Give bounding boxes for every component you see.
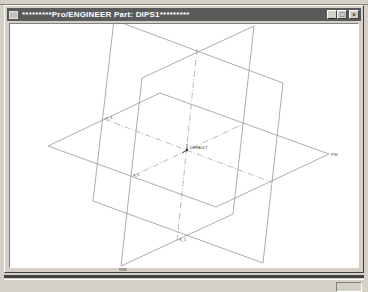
label-point-1: z_1 [106, 115, 113, 120]
label-point-3: X_1 [179, 237, 187, 242]
window-controls: _ □ × [327, 10, 359, 19]
status-indicator [336, 282, 362, 292]
title-bar[interactable]: *********Pro/ENGINEER Part: DIPS1*******… [7, 8, 361, 21]
model-view[interactable]: FRNT RIW PW DEFAULT z_1 s_1 X_1 [10, 24, 360, 274]
window-icon[interactable] [9, 11, 18, 19]
proe-part-window: *********Pro/ENGINEER Part: DIPS1*******… [4, 5, 364, 273]
status-bar [4, 279, 364, 292]
datum-plane-frnt[interactable] [93, 24, 283, 263]
window-separator [4, 275, 364, 278]
label-right: RIW [119, 267, 127, 272]
window-title: *********Pro/ENGINEER Part: DIPS1*******… [22, 10, 190, 19]
graphics-viewport[interactable]: FRNT RIW PW DEFAULT z_1 s_1 X_1 [9, 23, 359, 268]
maximize-button[interactable]: □ [337, 10, 347, 19]
label-point-2: s_1 [133, 172, 140, 177]
label-top: PW [331, 152, 338, 157]
close-button[interactable]: × [349, 10, 359, 19]
label-csys: DEFAULT [190, 145, 208, 150]
minimize-button[interactable]: _ [327, 10, 337, 19]
datum-plane-right[interactable] [121, 26, 254, 266]
datum-plane-top[interactable] [48, 93, 329, 207]
